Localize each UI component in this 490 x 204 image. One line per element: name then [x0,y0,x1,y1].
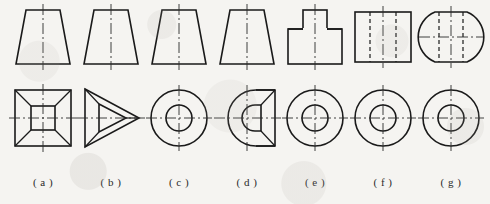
front-view-a [8,82,78,162]
figure-column-d: ( d ) [212,0,282,204]
figure-column-e: ( e ) [280,0,350,204]
figure-column-f: ( f ) [348,0,418,204]
drawing-sheet: ( a ) [0,0,490,204]
top-view-e [280,2,350,78]
front-view-b [76,82,146,162]
figure-label-e: ( e ) [280,176,350,188]
front-view-f [348,82,418,162]
figure-column-c: ( c ) [144,0,214,204]
figure-column-a: ( a ) [8,0,78,204]
figure-label-d: ( d ) [212,176,282,188]
top-view-a [8,2,78,78]
top-view-d [212,2,282,78]
top-view-f [348,2,418,78]
front-view-d [212,82,282,162]
figure-label-a: ( a ) [8,176,78,188]
figure-label-f: ( f ) [348,176,418,188]
figure-label-b: ( b ) [76,176,146,188]
figure-column-g: ( g ) [416,0,486,204]
figure-label-c: ( c ) [144,176,214,188]
top-view-g [416,2,486,78]
figure-label-g: ( g ) [416,176,486,188]
front-view-g [416,82,486,162]
top-view-c [144,2,214,78]
figure-column-b: ( b ) [76,0,146,204]
front-view-c [144,82,214,162]
front-view-e [280,82,350,162]
top-view-b [76,2,146,78]
